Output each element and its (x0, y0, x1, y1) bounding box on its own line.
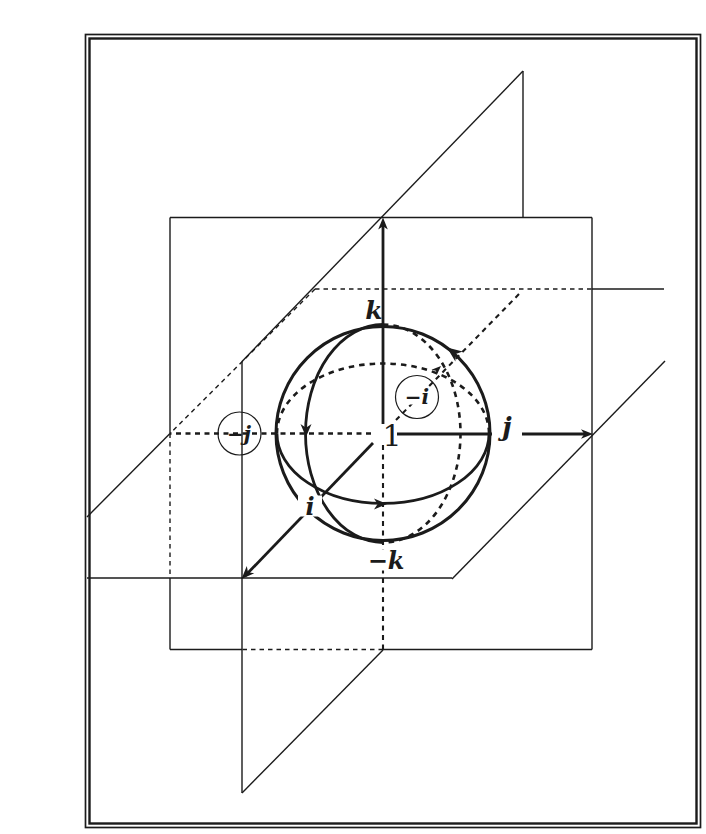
minus-i-arrowhead (431, 363, 443, 375)
label-minus-j: −j (227, 422, 252, 446)
slanted-plane-lower-diagonal-front (242, 650, 383, 793)
label-one: 1 (382, 418, 401, 453)
label-minus-k: −k (368, 546, 405, 575)
horizontal-plane-left-edge-front (87, 434, 170, 518)
diagram-svg: k−kji1−j−i (40, 16, 706, 834)
quaternion-sphere-figure: k−kji1−j−i (40, 16, 706, 834)
label-k: k (365, 296, 382, 325)
label-i: i (305, 492, 314, 521)
label-minus-i: −i (405, 385, 429, 409)
coordinate-planes (87, 71, 665, 793)
